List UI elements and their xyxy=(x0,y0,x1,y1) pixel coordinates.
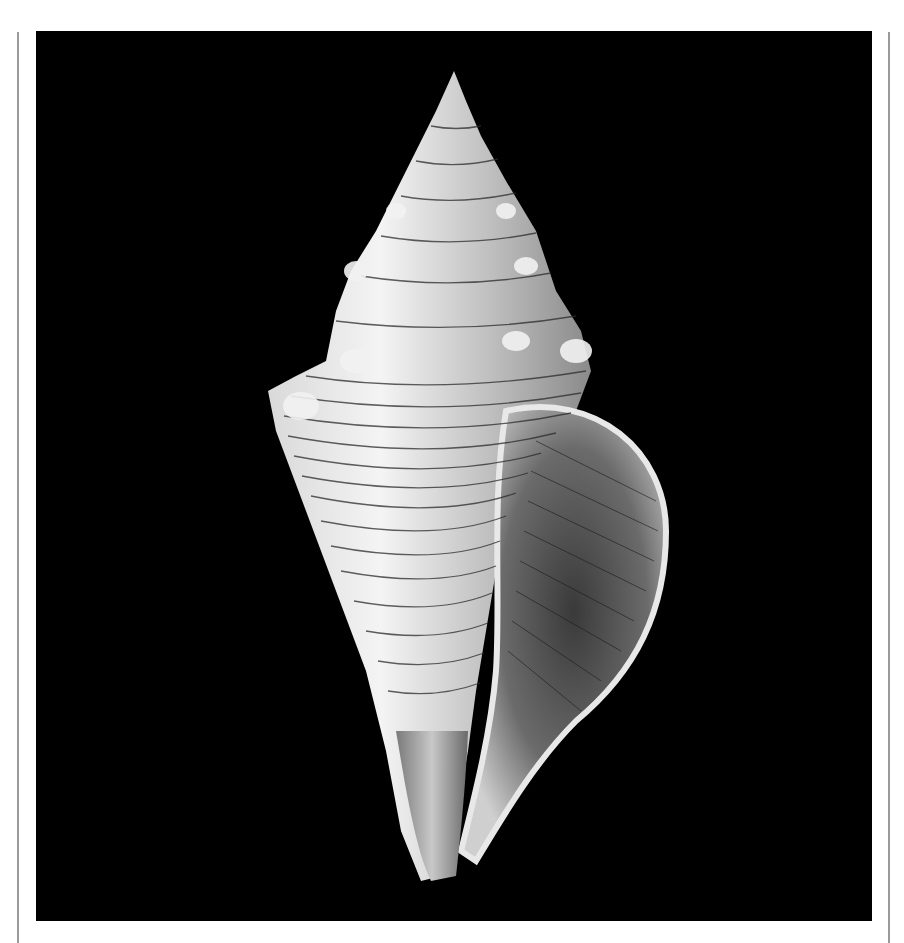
shell-photograph xyxy=(36,31,872,921)
seashell-illustration xyxy=(36,31,872,921)
frame-left-line xyxy=(17,32,19,943)
frame-right-line xyxy=(888,32,890,943)
